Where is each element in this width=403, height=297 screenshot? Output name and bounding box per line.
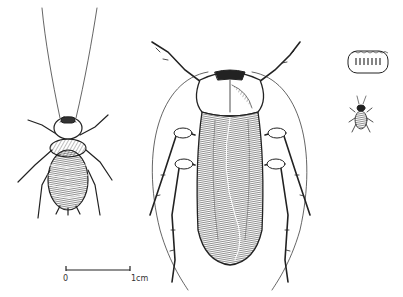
egg-case [348,51,388,73]
nymph-cockroach [18,8,112,218]
scale-bar [66,266,130,271]
scale-end-label: 1cm [131,274,148,283]
illustration [0,0,403,297]
hatchling-cockroach [349,96,373,132]
adult-cockroach [150,42,310,290]
scale-start-label: 0 [63,274,68,283]
